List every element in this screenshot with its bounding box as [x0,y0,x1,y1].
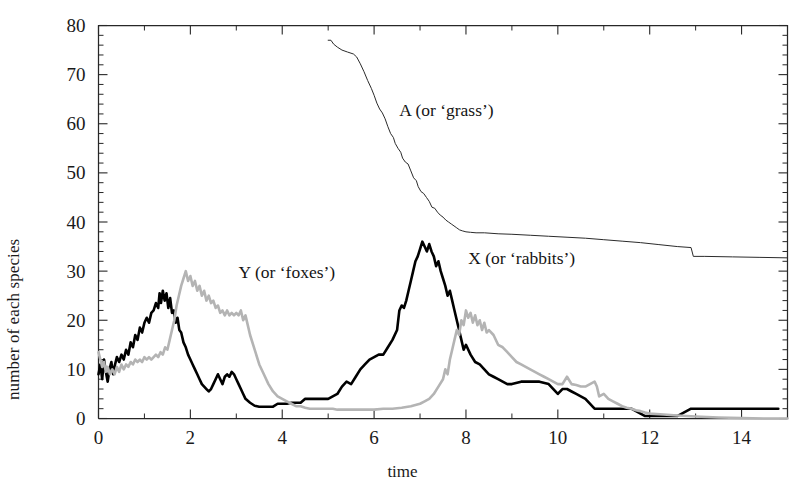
x-tick-label: 2 [186,427,196,448]
y-tick-label: 10 [67,359,86,380]
x-tick-label: 0 [94,427,104,448]
y-tick-label: 50 [67,162,86,183]
plot-frame [99,26,788,419]
series-line-foxes [99,271,788,418]
rabbits-label: X (or ‘rabbits’) [468,248,575,268]
x-tick-label: 10 [548,427,567,448]
y-tick-label: 80 [67,15,86,36]
x-axis-label: time [0,462,805,482]
y-axis-label-wrap: number of each species [4,100,30,400]
grass-label: A (or ‘grass’) [399,100,493,120]
y-axis-label: number of each species [4,239,24,400]
y-tick-label: 20 [67,310,86,331]
x-tick-label: 6 [369,427,379,448]
series-line-rabbits [99,242,779,416]
figure-container: 0102030405060708002468101214A (or ‘grass… [0,0,805,498]
y-tick-label: 40 [67,212,86,233]
foxes-label: Y (or ‘foxes’) [239,262,336,282]
y-tick-label: 60 [67,113,86,134]
x-tick-label: 4 [277,427,287,448]
x-tick-label: 8 [461,427,471,448]
y-tick-label: 70 [67,64,86,85]
series-line-grass [328,40,787,258]
y-tick-label: 0 [76,408,86,429]
x-tick-label: 12 [640,427,659,448]
species-population-line-chart: 0102030405060708002468101214A (or ‘grass… [0,0,805,498]
x-tick-label: 14 [732,427,752,448]
y-tick-label: 30 [67,261,86,282]
